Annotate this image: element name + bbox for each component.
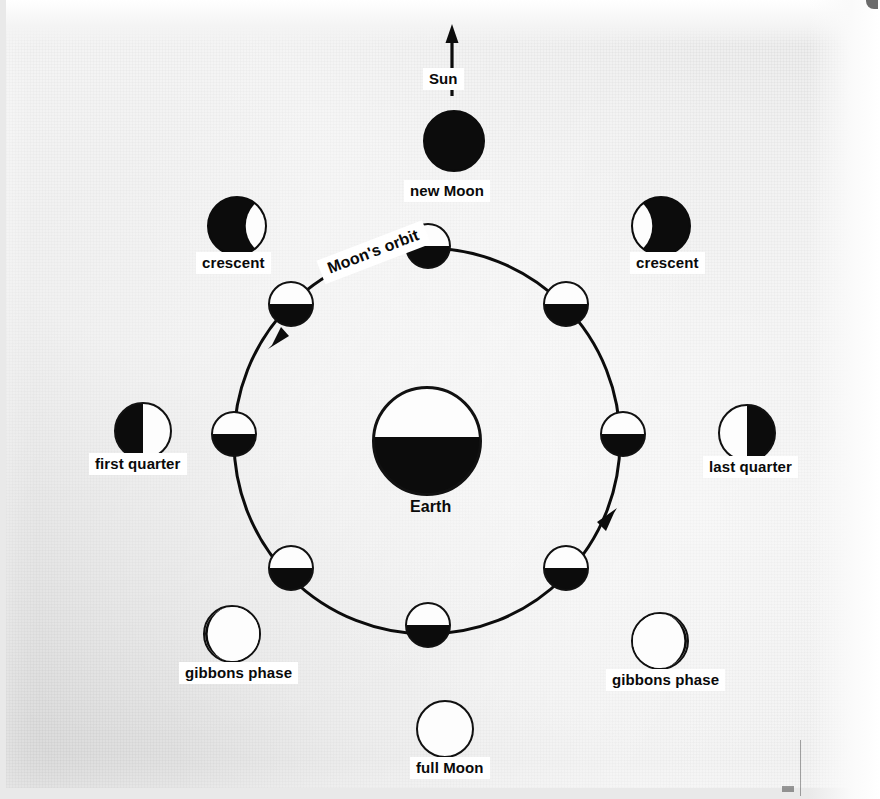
phase-new-moon-body	[423, 110, 485, 172]
phase-gibbous-waxing-label: gibbons phase	[179, 662, 298, 684]
sun-label: Sun	[423, 68, 464, 90]
orbit-moon-bottom	[405, 602, 451, 648]
moon-phase-diagram-page: Sun new Moon crescent crescent first qua…	[0, 0, 880, 799]
earth-label: Earth	[404, 496, 457, 519]
phase-full-moon-label: full Moon	[410, 757, 490, 779]
orbit-moon-lower-left	[268, 545, 314, 591]
phase-gibbous-waning-body	[631, 612, 689, 670]
phase-last-quarter-label: last quarter	[703, 456, 798, 478]
orbit-moon-left	[211, 411, 257, 457]
phase-crescent-waning-label: crescent	[630, 252, 705, 274]
phase-full-moon-body	[416, 700, 474, 758]
phase-gibbous-waxing-body	[203, 605, 261, 663]
phase-new-moon-label: new Moon	[404, 180, 490, 202]
orbit-moon-right	[600, 411, 646, 457]
phase-last-quarter-body	[718, 404, 776, 462]
phase-crescent-waxing-label: crescent	[196, 252, 271, 274]
phase-first-quarter-body	[114, 402, 172, 460]
phase-crescent-waning-body	[631, 196, 691, 256]
earth-body	[372, 386, 482, 496]
orbit-moon-upper-right	[543, 281, 589, 327]
phase-crescent-waxing-body	[207, 196, 267, 256]
orbit-moon-lower-right	[543, 545, 589, 591]
phase-gibbous-waning-label: gibbons phase	[606, 669, 725, 691]
orbit-arrow-left	[268, 327, 289, 349]
phase-first-quarter-label: first quarter	[89, 453, 187, 475]
orbit-moon-upper-left	[268, 281, 314, 327]
